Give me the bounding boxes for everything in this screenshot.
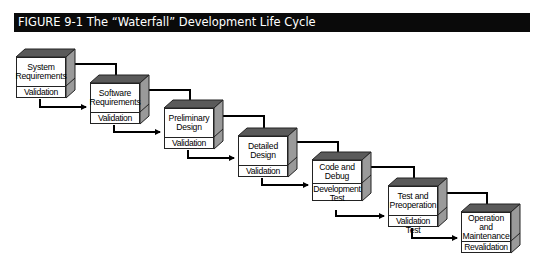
stage-label: Detailed Design xyxy=(239,137,287,166)
box-front-face: Code and Debug Development Test xyxy=(312,160,362,201)
stage-label-line: Preoperation xyxy=(390,201,437,210)
box-front-face: Software Requirements Validation xyxy=(90,83,140,124)
feedback-arrow-1 xyxy=(70,64,116,75)
forward-arrow-3 xyxy=(188,150,234,158)
stage-label: Operation and Maintenance xyxy=(462,213,510,242)
box-side-face xyxy=(214,100,223,149)
stage-check-label: Validation xyxy=(91,113,139,123)
stage-label: Test and Preoperation xyxy=(389,187,437,216)
box-front-face: Preliminary Design Validation xyxy=(164,108,214,149)
box-front-face: System Requirements Validation xyxy=(16,57,66,98)
box-front-face: Test and Preoperation Validation Test xyxy=(388,186,438,227)
stage-check-label: Revalidation xyxy=(462,242,510,252)
stage-check-label: Validation xyxy=(239,166,287,176)
box-top-face xyxy=(16,49,66,57)
stage-label: System Requirements xyxy=(17,58,65,87)
forward-arrow-1 xyxy=(40,99,86,107)
stage-check-label: Development Test xyxy=(313,184,361,203)
stage-label-line: Debug xyxy=(325,172,349,181)
forward-arrow-2 xyxy=(114,125,160,132)
stage-label: Preliminary Design xyxy=(165,109,213,138)
box-side-face xyxy=(140,75,149,124)
feedback-arrow-4 xyxy=(292,142,338,152)
stage-label: Software Requirements xyxy=(91,84,139,113)
box-top-face xyxy=(388,178,438,186)
stage-label-line: Design xyxy=(250,151,276,160)
box-side-face xyxy=(66,49,75,98)
box-side-face xyxy=(288,128,297,177)
box-front-face: Operation and Maintenance Revalidation xyxy=(461,212,511,253)
box-top-face xyxy=(164,100,214,108)
box-top-face xyxy=(238,128,288,136)
stage-check-label: Validation xyxy=(17,87,65,97)
box-top-face xyxy=(461,204,511,212)
stage-label-line: Maintenance xyxy=(462,232,509,241)
stage-label-line: Design xyxy=(176,123,202,132)
stage-label: Code and Debug xyxy=(313,161,361,184)
forward-arrow-5 xyxy=(336,210,384,216)
box-side-face xyxy=(438,178,447,227)
box-side-face xyxy=(511,204,520,253)
feedback-arrow-5 xyxy=(366,167,414,178)
forward-arrow-4 xyxy=(262,178,308,185)
stage-check-label: Validation Test xyxy=(389,216,437,235)
feedback-arrow-3 xyxy=(218,116,264,128)
stage-check-label: Validation xyxy=(165,138,213,148)
box-side-face xyxy=(362,152,371,201)
box-front-face: Detailed Design Validation xyxy=(238,136,288,177)
stage-check-line: Test xyxy=(313,194,361,203)
feedback-arrow-2 xyxy=(144,90,190,100)
box-top-face xyxy=(90,75,140,83)
stage-label-line: Requirements xyxy=(15,72,66,81)
feedback-arrow-6 xyxy=(442,193,487,204)
stage-label-line: Requirements xyxy=(89,98,140,107)
box-top-face xyxy=(312,152,362,160)
